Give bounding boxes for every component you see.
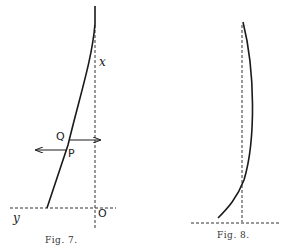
figure-7: x Q P y O Fig. 7.: [10, 6, 116, 245]
point-q-label: Q: [56, 130, 65, 143]
figure-7-caption: Fig. 7.: [45, 235, 78, 245]
bent-column-curve: [218, 22, 253, 218]
diagram-canvas: x Q P y O Fig. 7. Fig. 8.: [0, 0, 284, 251]
deflection-curve: [47, 6, 95, 208]
y-axis-label: y: [12, 211, 20, 225]
figure-8-caption: Fig. 8.: [217, 230, 250, 240]
x-axis-label: x: [99, 55, 106, 69]
origin-label: O: [98, 207, 107, 220]
figure-8: Fig. 8.: [191, 22, 279, 240]
point-p-label: P: [68, 147, 75, 160]
